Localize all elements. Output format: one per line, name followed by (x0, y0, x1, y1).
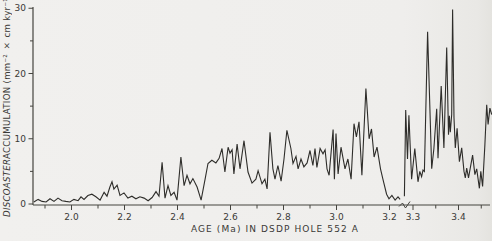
data-lines (34, 10, 492, 202)
data-line (34, 89, 400, 203)
svg-text:2.0: 2.0 (64, 212, 79, 222)
svg-text:2.2: 2.2 (117, 212, 131, 222)
svg-text:3.3: 3.3 (406, 212, 420, 222)
svg-text:2.6: 2.6 (223, 212, 238, 222)
chart-figure: DISCOASTER ACCUMULATION (mm⁻² × cm kyr⁻¹… (0, 0, 492, 241)
svg-text:30: 30 (15, 3, 27, 13)
svg-text:3.2: 3.2 (382, 212, 396, 222)
plot-area: 01020302.02.22.42.62.83.03.23.33.4 (0, 0, 492, 241)
data-line (404, 10, 491, 197)
svg-text:10: 10 (15, 134, 27, 144)
svg-text:3.0: 3.0 (329, 212, 344, 222)
svg-text:3.4: 3.4 (451, 212, 466, 222)
svg-text:20: 20 (15, 69, 27, 79)
x-axis-title: AGE (Ma) IN DSDP HOLE 552 A (120, 224, 430, 234)
svg-text:0: 0 (20, 199, 26, 209)
axis-tick-labels: 01020302.02.22.42.62.83.03.23.33.4 (15, 3, 466, 222)
svg-text:2.4: 2.4 (170, 212, 185, 222)
svg-text:2.8: 2.8 (276, 212, 291, 222)
